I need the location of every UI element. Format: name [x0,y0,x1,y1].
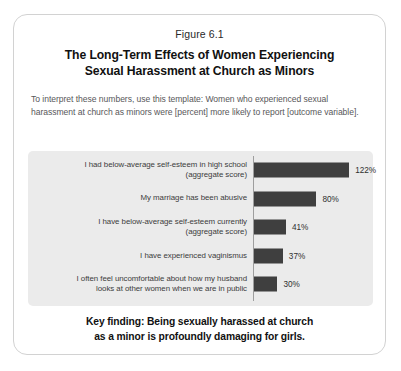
figure-description: To interpret these numbers, use this tem… [14,93,385,119]
bar-category-label: My marriage has been abusive [36,193,247,203]
bar-category-label-line: I have below-average self-esteem current… [36,217,247,227]
chart-bar-row: My marriage has been abusive80% [28,186,373,212]
bar [254,277,277,292]
key-finding-line-1: Key finding: Being sexually harassed at … [36,315,363,330]
figure-number: Figure 6.1 [14,28,385,40]
key-finding-line-2: as a minor is profoundly damaging for gi… [36,330,363,345]
bar-value-label: 30% [283,280,299,289]
bar-category-label-line: (aggregate score) [36,227,247,237]
bar-wrapper: 80% [254,191,339,206]
bar-chart: I had below-average self-esteem in high … [28,151,373,306]
chart-bar-row: I have below-average self-esteem current… [28,214,373,240]
chart-bar-row: I had below-average self-esteem in high … [28,157,373,183]
bar-value-label: 80% [322,194,338,203]
bar-value-label: 122% [355,166,376,175]
bar-category-label-line: My marriage has been abusive [36,193,247,203]
bar-value-label: 41% [292,223,308,232]
bar-category-label: I have below-average self-esteem current… [36,217,247,238]
page-title: The Long-Term Effects of Women Experienc… [14,47,385,79]
figure-title-line-2: Sexual Harassment at Church as Minors [30,63,369,79]
bar [254,163,349,178]
bar-category-label: I have experienced vaginismus [36,251,247,261]
bar [254,191,316,206]
bar [254,220,286,235]
bar-value-label: 37% [289,251,305,260]
bar-category-label: I had below-average self-esteem in high … [36,160,247,181]
bar-category-label-line: looks at other women when we are in publ… [36,284,247,294]
figure-card: Figure 6.1 The Long-Term Effects of Wome… [13,14,386,355]
bar [254,248,283,263]
bar-category-label: I often feel uncomfortable about how my … [36,274,247,295]
figure-title-line-1: The Long-Term Effects of Women Experienc… [30,47,369,63]
chart-rows: I had below-average self-esteem in high … [28,151,373,306]
bar-wrapper: 37% [254,248,305,263]
bar-category-label-line: I often feel uncomfortable about how my … [36,274,247,284]
bar-category-label-line: (aggregate score) [36,170,247,180]
bar-category-label-line: I have experienced vaginismus [36,251,247,261]
bar-wrapper: 41% [254,220,308,235]
bar-wrapper: 122% [254,163,376,178]
bar-wrapper: 30% [254,277,300,292]
chart-bar-row: I have experienced vaginismus37% [28,243,373,269]
chart-bar-row: I often feel uncomfortable about how my … [28,271,373,297]
bar-category-label-line: I had below-average self-esteem in high … [36,160,247,170]
key-finding-text: Key finding: Being sexually harassed at … [14,315,385,344]
